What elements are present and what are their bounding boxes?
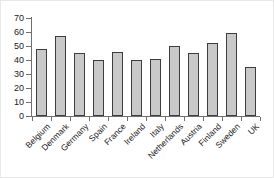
y-axis-tick [26, 60, 31, 61]
x-axis-tick [260, 117, 261, 121]
bar [112, 52, 123, 116]
x-axis-tick [241, 117, 242, 121]
y-axis-tick-label: 0 [19, 112, 24, 121]
bar-chart-figure: 010203040506070 BelgiumDenmarkGermanySpa… [0, 0, 274, 178]
y-axis-tick-label: 20 [14, 84, 24, 93]
y-axis-tick-label-wrap: 10 [1, 102, 24, 103]
x-axis-tick [32, 117, 33, 121]
x-axis-tick [70, 117, 71, 121]
x-axis-tick [51, 117, 52, 121]
y-axis-tick-label: 60 [14, 28, 24, 37]
y-axis-tick [26, 88, 31, 89]
bar [188, 53, 199, 116]
x-axis-tick [146, 117, 147, 121]
y-axis-tick-label: 30 [14, 70, 24, 79]
bar [131, 60, 142, 116]
bar [245, 67, 256, 116]
x-axis-tick [165, 117, 166, 121]
x-axis-tick-label: UK [246, 122, 261, 137]
bar [74, 53, 85, 116]
y-axis-tick [26, 18, 31, 19]
bar [207, 43, 218, 116]
bar [150, 59, 161, 116]
y-axis-tick-label: 40 [14, 56, 24, 65]
bar [55, 36, 66, 116]
x-axis-tick [222, 117, 223, 121]
x-axis-tick [127, 117, 128, 121]
y-axis-tick-label-wrap: 0 [1, 116, 24, 117]
y-axis-tick-label-wrap: 50 [1, 46, 24, 47]
x-axis-tick [89, 117, 90, 121]
y-axis-tick-label-wrap: 70 [1, 18, 24, 19]
y-axis-tick-label-wrap: 30 [1, 74, 24, 75]
y-axis-tick-label-wrap: 40 [1, 60, 24, 61]
y-axis-tick-label: 50 [14, 42, 24, 51]
y-axis-tick-label: 10 [14, 98, 24, 107]
y-axis-tick-label: 70 [14, 14, 24, 23]
plot-area [32, 18, 260, 116]
y-axis-tick [26, 32, 31, 33]
bar [36, 49, 47, 116]
y-axis-tick [26, 46, 31, 47]
x-axis-tick [108, 117, 109, 121]
bar [226, 33, 237, 116]
y-axis-tick-label-wrap: 20 [1, 88, 24, 89]
y-axis-tick [26, 74, 31, 75]
x-axis-tick [203, 117, 204, 121]
y-axis-tick [26, 102, 31, 103]
y-axis-tick-label-wrap: 60 [1, 32, 24, 33]
bar [93, 60, 104, 116]
x-axis-tick [184, 117, 185, 121]
bar [169, 46, 180, 116]
